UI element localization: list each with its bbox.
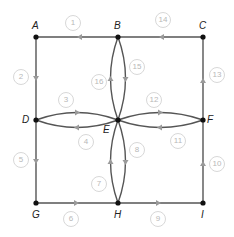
graph-diagram: A B C D E F G H I 1 2 3 4 5 6 7 8 9 10 1… [0, 0, 234, 237]
node-i [200, 200, 205, 205]
arrow-right-icon [158, 110, 163, 116]
edge-label-8: 8 [129, 142, 145, 158]
arrow-down-icon [33, 76, 39, 81]
edge-label-12: 12 [146, 92, 162, 108]
node-f [200, 117, 205, 122]
edge-label-5: 5 [13, 152, 29, 168]
edge-label-13: 13 [209, 67, 225, 83]
edge-label-6: 6 [63, 211, 79, 227]
edge-label-7: 7 [91, 176, 107, 192]
edge-label-15: 15 [129, 59, 145, 75]
arrow-up-icon [108, 76, 114, 81]
arrow-up-icon [200, 78, 206, 83]
node-label-e: E [103, 125, 110, 135]
arrow-right-icon [75, 110, 80, 116]
node-b [115, 34, 120, 39]
edge-label-14: 14 [155, 12, 171, 28]
edge-label-1: 1 [65, 15, 81, 31]
node-label-g: G [32, 210, 40, 220]
node-label-d: D [22, 115, 29, 125]
node-label-c: C [199, 21, 206, 31]
arrow-up-icon [200, 161, 206, 166]
node-a [33, 34, 38, 39]
node-h [115, 200, 120, 205]
edge-label-2: 2 [13, 69, 29, 85]
node-label-f: F [207, 115, 213, 125]
edge-label-10: 10 [209, 156, 225, 172]
arrow-down-icon [123, 160, 129, 165]
node-g [33, 200, 38, 205]
edge-label-9: 9 [150, 211, 166, 227]
arrow-right-icon [74, 200, 79, 206]
node-label-i: I [201, 210, 204, 220]
arrow-down-icon [123, 77, 129, 82]
edge-label-11: 11 [170, 133, 186, 149]
node-label-b: B [114, 21, 121, 31]
arrow-left-icon [159, 34, 164, 40]
node-label-a: A [32, 21, 39, 31]
node-label-h: H [114, 210, 121, 220]
arrow-left-icon [157, 125, 162, 131]
arrow-down-icon [33, 159, 39, 164]
arrow-left-icon [77, 34, 82, 40]
node-e [115, 117, 120, 122]
arrow-up-icon [108, 159, 114, 164]
arrow-right-icon [156, 200, 161, 206]
node-c [200, 34, 205, 39]
graph-canvas [0, 0, 234, 237]
node-d [33, 117, 38, 122]
edge-label-3: 3 [58, 92, 74, 108]
edge-label-4: 4 [78, 134, 94, 150]
edge-label-16: 16 [91, 74, 107, 90]
arrow-left-icon [74, 125, 79, 131]
